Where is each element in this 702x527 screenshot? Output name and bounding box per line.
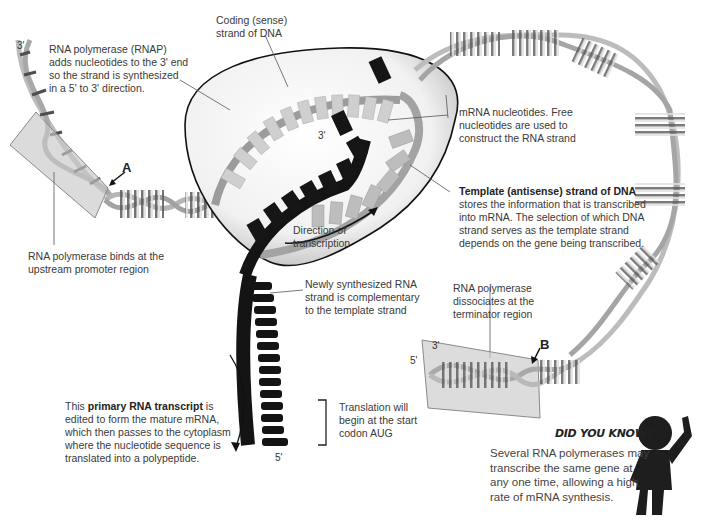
strand-end-5prime-rna: 5' [275, 452, 282, 463]
promoter-region-box [10, 112, 108, 218]
label-line: transcription [293, 237, 350, 250]
label-line: mRNA nucleotides. Free [459, 106, 576, 119]
transcription-diagram: 3' RNA polymerase (RNAP) adds nucleotide… [0, 0, 702, 527]
label-dissociates-terminator: RNA polymerase dissociates at the termin… [453, 282, 534, 321]
strand-end-3prime-terminator: 3' [432, 340, 439, 351]
did-you-know-text: Several RNA polymerases may transcribe t… [490, 446, 649, 504]
label-line: edited to form the mature mRNA, [65, 413, 280, 426]
label-line: strand serves as the template strand [459, 224, 699, 237]
marker-b: B [540, 337, 549, 352]
label-line: Direction of [293, 224, 350, 237]
label-translation-start: Translation will begin at the start codo… [339, 401, 417, 440]
label-template-strand: Template (antisense) strand of DNA store… [459, 185, 699, 250]
label-newly-synthesized-rna: Newly synthesized RNA strand is compleme… [305, 278, 419, 317]
strand-end-3prime-rna: 3' [318, 130, 325, 141]
label-rnap-adds-nucleotides: RNA polymerase (RNAP) adds nucleotides t… [49, 43, 219, 95]
label-line: any one time, allowing a high [490, 475, 649, 490]
label-line: depends on the gene being transcribed. [459, 237, 699, 250]
label-fragment: is [203, 400, 214, 412]
label-line: Coding (sense) [216, 14, 287, 27]
label-line: Several RNA polymerases may [490, 446, 649, 461]
label-line: so the strand is synthesized [49, 69, 219, 82]
label-line: transcribe the same gene at [490, 461, 649, 476]
label-line: strand is complementary [305, 291, 419, 304]
label-line: RNA polymerase (RNAP) [49, 43, 219, 56]
label-fragment: This [65, 400, 88, 412]
label-mrna-nucleotides: mRNA nucleotides. Free nucleotides are u… [459, 106, 576, 145]
label-primary-rna-transcript: This primary RNA transcript is edited to… [65, 400, 280, 465]
label-line: Newly synthesized RNA [305, 278, 419, 291]
label-line: codon AUG [339, 427, 417, 440]
label-line: upstream promoter region [28, 263, 164, 276]
label-line: RNA polymerase [453, 282, 534, 295]
strand-end-5prime-terminator: 5' [410, 355, 417, 366]
label-line: in a 5' to 3' direction. [49, 82, 219, 95]
did-you-know-heading: DID YOU KNOW? [555, 427, 653, 440]
label-line: which then passes to the cytoplasm [65, 426, 280, 439]
strand-end-3prime-top-left: 3' [17, 40, 24, 51]
label-line: strand of DNA [216, 27, 287, 40]
label-line: into mRNA. The selection of which DNA [459, 211, 699, 224]
label-line: to the template strand [305, 304, 419, 317]
label-coding-strand: Coding (sense) strand of DNA [216, 14, 287, 40]
label-primary-bold: primary RNA transcript [88, 400, 203, 412]
label-line: translated into a polypeptide. [65, 452, 280, 465]
marker-a: A [122, 160, 131, 175]
dna-terminator-segment [430, 360, 580, 388]
label-line: dissociates at the [453, 295, 534, 308]
label-template-title: Template (antisense) strand of DNA [459, 185, 636, 197]
label-line: terminator region [453, 308, 534, 321]
label-line: where the nucleotide sequence is [65, 439, 280, 452]
label-binds-promoter: RNA polymerase binds at the upstream pro… [28, 250, 164, 276]
label-line: Translation will [339, 401, 417, 414]
label-line: stores the information that is transcrib… [459, 198, 699, 211]
label-line: begin at the start [339, 414, 417, 427]
label-line: RNA polymerase binds at the [28, 250, 164, 263]
label-line: construct the RNA strand [459, 132, 576, 145]
label-direction-of-transcription: Direction of transcription [293, 224, 350, 250]
label-line: rate of mRNA synthesis. [490, 490, 649, 505]
label-line: nucleotides are used to [459, 119, 576, 132]
label-line: adds nucleotides to the 3' end [49, 56, 219, 69]
